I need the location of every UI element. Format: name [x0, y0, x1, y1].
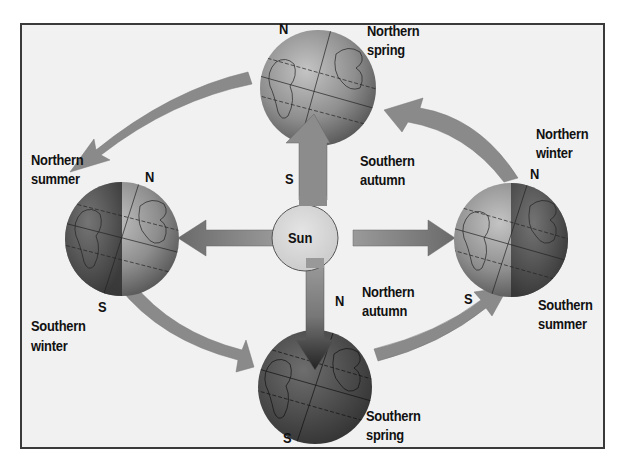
- season-label-northern-autumn-line1: Northern: [362, 283, 414, 300]
- seasons-diagram: [0, 0, 626, 470]
- sun-arrow-right: [353, 220, 455, 256]
- season-label-northern-summer-line1: Northern: [31, 151, 83, 168]
- season-label-southern-summer-line2: summer: [538, 315, 587, 332]
- season-label-northern-summer-line2: summer: [31, 170, 80, 187]
- north-pole-label-bottom: N: [335, 292, 344, 309]
- globe-right: [452, 182, 572, 300]
- season-label-northern-autumn-line2: autumn: [362, 302, 407, 319]
- sun-arrow-up-base: [299, 196, 327, 206]
- sun-label: Sun: [288, 229, 312, 246]
- globe-left: [60, 180, 185, 300]
- sun-arrow-down-base: [306, 258, 324, 268]
- season-label-northern-winter-line2: winter: [536, 144, 572, 161]
- season-label-southern-winter-line2: winter: [31, 337, 67, 354]
- season-label-southern-autumn-line2: autumn: [360, 171, 405, 188]
- season-label-northern-winter-line1: Northern: [536, 125, 588, 142]
- season-label-southern-summer-line1: Southern: [538, 296, 593, 313]
- season-label-southern-autumn-line1: Southern: [360, 152, 415, 169]
- season-label-southern-winter-line1: Southern: [31, 317, 86, 334]
- north-pole-label-left: N: [145, 168, 154, 185]
- season-label-northern-spring-line2: spring: [367, 41, 405, 58]
- orbit-arrow-top-left: [70, 72, 252, 172]
- season-label-northern-spring-line1: Northern: [367, 22, 419, 39]
- north-pole-label-right: N: [530, 165, 539, 182]
- south-pole-label-bottom: S: [283, 429, 292, 446]
- orbit-arrow-top-right: [384, 98, 518, 182]
- orbit-arrow-bottom-left: [118, 282, 254, 372]
- south-pole-label-top: S: [285, 170, 294, 187]
- north-pole-label-top: N: [279, 20, 288, 37]
- sun-arrow-left: [178, 220, 278, 256]
- south-pole-label-right: S: [464, 290, 473, 307]
- season-label-southern-spring-line1: Southern: [366, 407, 421, 424]
- season-label-southern-spring-line2: spring: [366, 426, 404, 443]
- south-pole-label-left: S: [98, 298, 107, 315]
